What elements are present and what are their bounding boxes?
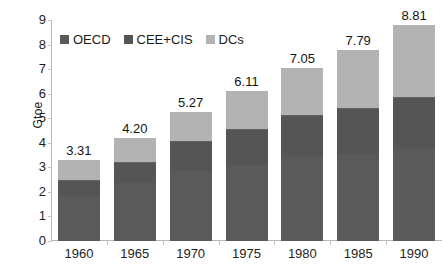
- legend-label-oecd: OECD: [73, 32, 111, 47]
- plot-area: 3.314.205.276.117.057.798.81: [51, 20, 442, 241]
- bar-segment-dcs[interactable]: [114, 138, 156, 163]
- x-tick-mark: [330, 241, 331, 245]
- y-tick-label: 0: [24, 234, 46, 247]
- x-tick-label: 1960: [51, 246, 107, 261]
- bar-total-label: 6.11: [234, 74, 258, 89]
- y-tick-label: 1: [24, 209, 46, 222]
- x-tick-label: 1970: [163, 246, 219, 261]
- bar-segment-cee-cis[interactable]: [337, 108, 379, 153]
- x-tick-mark: [219, 241, 220, 245]
- y-tick-label: 4: [24, 136, 46, 149]
- bar-total-label: 5.27: [178, 95, 203, 110]
- x-tick-label: 1985: [330, 246, 386, 261]
- bar-segment-cee-cis[interactable]: [393, 97, 435, 147]
- bar-segment-oecd[interactable]: [114, 183, 156, 241]
- legend-label-dcs: DCs: [219, 32, 244, 47]
- x-tick-label: 1980: [274, 246, 330, 261]
- bar-segment-oecd[interactable]: [58, 196, 100, 241]
- y-tick-label: 6: [24, 87, 46, 100]
- legend-item-oecd[interactable]: OECD: [60, 32, 111, 47]
- bar-segment-cee-cis[interactable]: [170, 141, 212, 171]
- bar-segment-dcs[interactable]: [226, 91, 268, 129]
- bar-stack[interactable]: 6.11: [226, 91, 268, 241]
- bar-segment-dcs[interactable]: [393, 25, 435, 98]
- x-tick-mark: [107, 241, 108, 245]
- y-tick-mark: [48, 241, 52, 242]
- bar-segment-dcs[interactable]: [170, 112, 212, 141]
- bar-segment-oecd[interactable]: [170, 171, 212, 241]
- x-tick-label: 1965: [107, 246, 163, 261]
- y-tick-label: 8: [24, 38, 46, 51]
- legend-item-cee-cis[interactable]: CEE+CIS: [124, 32, 193, 47]
- bar-segment-dcs[interactable]: [281, 68, 323, 115]
- x-tick-label: 1990: [386, 246, 442, 261]
- y-tick-label: 3: [24, 160, 46, 173]
- bar-segment-cee-cis[interactable]: [58, 180, 100, 195]
- bar-segment-oecd[interactable]: [281, 156, 323, 241]
- legend-label-cee-cis: CEE+CIS: [137, 32, 193, 47]
- x-tick-label: 1975: [219, 246, 275, 261]
- x-tick-mark: [386, 241, 387, 245]
- bar-segment-cee-cis[interactable]: [281, 115, 323, 157]
- y-tick-label: 5: [24, 111, 46, 124]
- legend-swatch-dcs-icon: [206, 35, 215, 44]
- bar-stack[interactable]: 4.20: [114, 138, 156, 241]
- bar-total-label: 7.79: [346, 33, 371, 48]
- legend-swatch-cee-cis-icon: [124, 35, 133, 44]
- y-tick-label: 2: [24, 185, 46, 198]
- bar-segment-oecd[interactable]: [226, 165, 268, 241]
- y-tick-label: 9: [24, 13, 46, 26]
- bar-total-label: 4.20: [122, 121, 147, 136]
- bar-total-label: 3.31: [66, 143, 91, 158]
- bar-segment-cee-cis[interactable]: [114, 162, 156, 183]
- x-tick-mark: [163, 241, 164, 245]
- legend-item-dcs[interactable]: DCs: [206, 32, 244, 47]
- bar-segment-cee-cis[interactable]: [226, 129, 268, 165]
- bar-total-label: 7.05: [290, 51, 315, 66]
- x-tick-mark: [274, 241, 275, 245]
- chart-legend: OECD CEE+CIS DCs: [60, 32, 244, 47]
- stacked-bar-chart: Gtoe 0123456789 3.314.205.276.117.057.79…: [0, 0, 444, 269]
- y-tick-label: 7: [24, 62, 46, 75]
- bar-segment-dcs[interactable]: [58, 160, 100, 181]
- bar-stack[interactable]: 7.05: [281, 68, 323, 241]
- legend-swatch-oecd-icon: [60, 35, 69, 44]
- bar-stack[interactable]: 8.81: [393, 25, 435, 241]
- bar-segment-oecd[interactable]: [393, 148, 435, 241]
- bar-stack[interactable]: 7.79: [337, 50, 379, 241]
- bar-segment-oecd[interactable]: [337, 154, 379, 241]
- bar-segment-dcs[interactable]: [337, 50, 379, 109]
- bar-stack[interactable]: 5.27: [170, 112, 212, 241]
- bar-stack[interactable]: 3.31: [58, 160, 100, 241]
- bar-total-label: 8.81: [401, 8, 426, 23]
